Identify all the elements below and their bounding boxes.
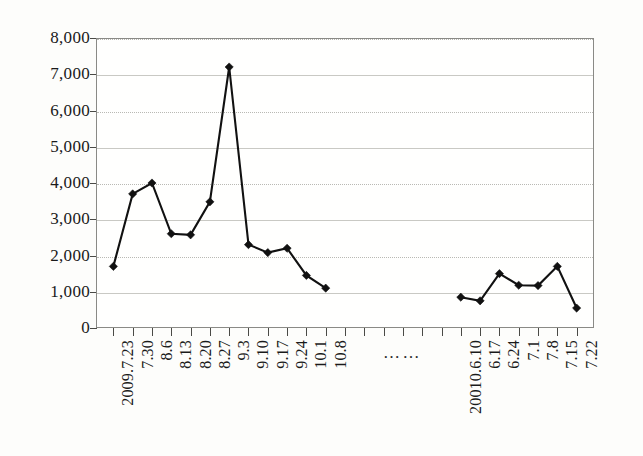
x-tick-label: 7.8	[545, 340, 561, 361]
x-tick-label: 10.8	[333, 340, 349, 369]
x-tick-label: 9.10	[255, 340, 271, 369]
x-tick-mark	[287, 328, 288, 336]
x-tick-mark	[326, 328, 327, 336]
axis-break-ellipsis: ……	[383, 344, 422, 361]
x-tick-mark	[268, 328, 269, 336]
x-tick-label: 7.15	[564, 340, 580, 369]
plot-area	[96, 38, 594, 328]
x-tick-mark	[191, 328, 192, 336]
y-tick-mark	[90, 328, 97, 329]
x-tick-mark	[152, 328, 153, 336]
x-tick-mark	[384, 328, 385, 336]
gridline	[97, 293, 593, 294]
x-tick-mark	[577, 328, 578, 336]
x-tick-label: 8.27	[217, 340, 233, 369]
x-tick-label: 20010.6.10	[468, 340, 484, 414]
x-tick-label: 8.20	[198, 340, 214, 369]
x-tick-label: 7.1	[526, 340, 542, 361]
x-tick-mark	[229, 328, 230, 336]
y-tick-label: 3,000	[2, 210, 90, 227]
x-tick-mark	[557, 328, 558, 336]
gridline	[97, 39, 593, 40]
x-tick-mark	[499, 328, 500, 336]
gridline	[97, 112, 593, 113]
x-tick-mark	[538, 328, 539, 336]
y-axis: 8,0007,0006,0005,0004,0003,0002,0001,000…	[0, 0, 90, 456]
x-tick-label: 7.30	[140, 340, 156, 369]
x-tick-label: 10.1	[313, 340, 329, 369]
gridline	[97, 184, 593, 185]
x-tick-mark	[113, 328, 114, 336]
x-tick-mark	[480, 328, 481, 336]
x-tick-mark	[306, 328, 307, 336]
x-tick-mark	[364, 328, 365, 336]
y-tick-label: 4,000	[2, 174, 90, 191]
gridline	[97, 148, 593, 149]
x-tick-label: 6.17	[487, 340, 503, 369]
x-tick-mark	[248, 328, 249, 336]
x-tick-mark	[171, 328, 172, 336]
x-tick-mark	[403, 328, 404, 336]
x-tick-label: 8.6	[159, 340, 175, 361]
x-tick-mark	[210, 328, 211, 336]
x-tick-label: 9.17	[275, 340, 291, 369]
y-tick-label: 0	[2, 319, 90, 336]
line-chart: 8,0007,0006,0005,0004,0003,0002,0001,000…	[0, 0, 643, 456]
x-tick-mark	[422, 328, 423, 336]
gridline	[97, 75, 593, 76]
x-tick-mark	[442, 328, 443, 336]
x-tick-label: 6.24	[506, 340, 522, 369]
y-tick-label: 1,000	[2, 283, 90, 300]
x-tick-mark	[345, 328, 346, 336]
y-tick-label: 5,000	[2, 138, 90, 155]
gridline	[97, 257, 593, 258]
x-tick-label: 2009.7.23	[120, 340, 136, 406]
x-tick-label: 9.24	[294, 340, 310, 369]
x-tick-label: 8.13	[178, 340, 194, 369]
x-tick-label: 9.3	[236, 340, 252, 361]
x-tick-label: 7.22	[584, 340, 600, 369]
x-tick-mark	[461, 328, 462, 336]
y-tick-label: 2,000	[2, 247, 90, 264]
gridline	[97, 220, 593, 221]
x-tick-mark	[133, 328, 134, 336]
y-tick-label: 7,000	[2, 65, 90, 82]
x-tick-mark	[519, 328, 520, 336]
y-tick-label: 6,000	[2, 102, 90, 119]
y-tick-label: 8,000	[2, 29, 90, 46]
